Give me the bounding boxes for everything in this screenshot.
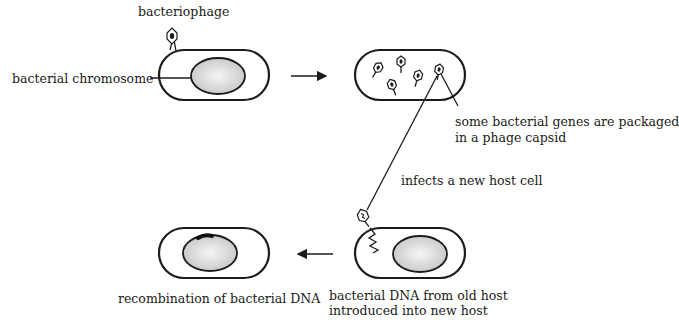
label-bacteriophage: bacteriophage [138,4,229,19]
label-introduced-line1: bacterial DNA from old host [329,288,508,303]
cell-new-host [355,228,465,278]
label-bacterial-chromosome: bacterial chromosome [12,71,153,86]
label-recombination: recombination of bacterial DNA [118,291,320,306]
infecting-phage-icon [356,208,372,229]
bacteriophage-icon [167,28,177,51]
label-packaged-line1: some bacterial genes are packaged [455,114,679,129]
label-packaged-line2: in a phage capsid [455,130,566,145]
label-introduced-line2: introduced into new host [329,303,488,318]
label-infects: infects a new host cell [401,173,542,188]
cell-recombinant [159,228,269,278]
cell-infected [159,50,269,100]
cell-lysing-with-phages [355,50,465,100]
